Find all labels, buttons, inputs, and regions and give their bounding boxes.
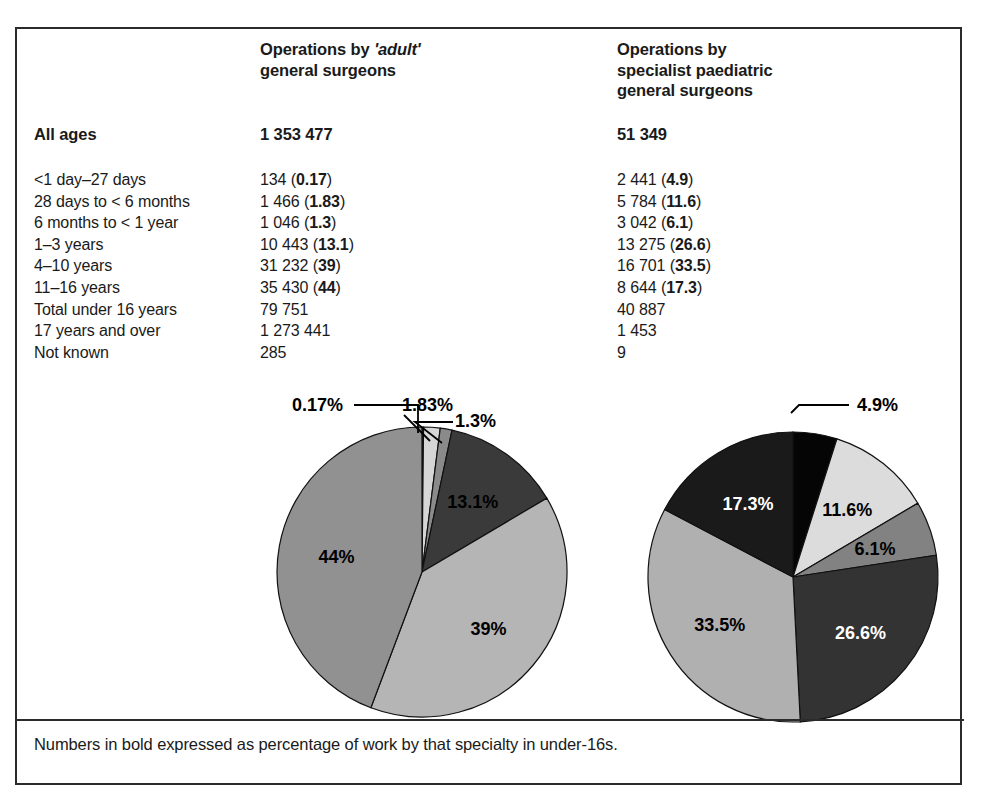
table-row-paed-value: 40 887 (617, 299, 917, 321)
table-row-label: 6 months to < 1 year (34, 212, 264, 234)
table-row-paed-value: 2 441 (4.9) (617, 169, 917, 191)
pie-slice (422, 427, 424, 572)
table-row-adult-percent: 39 (318, 257, 336, 274)
pie-slice-label: 11.6% (822, 500, 872, 520)
table-row-label: 4–10 years (34, 255, 264, 277)
table-row-paed-percent: 17.3 (666, 279, 697, 296)
table-row-adult-value: 35 430 (44) (260, 277, 490, 299)
pie-slice (422, 427, 440, 572)
table-row-adult-percent: 44 (318, 279, 336, 296)
pie-callout-leader-line (791, 405, 849, 413)
table-row-adult-value: 10 443 (13.1) (260, 234, 490, 256)
pie-slice-label: 39% (471, 619, 507, 639)
column-header-paediatric: Operations by specialist paediatric gene… (617, 39, 917, 101)
column-header-adult-line2: general surgeons (260, 61, 396, 79)
pie-callout-017: 0.17% (292, 395, 343, 415)
column-header-adult-line1: Operations by (260, 40, 374, 58)
footer-divider (17, 719, 964, 721)
pie-slice-label: 13.1% (447, 492, 498, 512)
table-row-paed-value: 8 644 (17.3) (617, 277, 917, 299)
pie-callout-183: 1.83% (402, 395, 453, 415)
table-row-paed-percent: 11.6 (666, 193, 696, 210)
pie-slice-label: 17.3% (722, 494, 773, 514)
table-row-paed-value: 13 275 (26.6) (617, 234, 917, 256)
table-row-label: 1–3 years (34, 234, 264, 256)
table-row-adult-percent: 1.3 (309, 214, 331, 231)
pie-slice (665, 432, 793, 577)
table-row-paed-percent: 6.1 (666, 214, 688, 231)
pie-callout-13: 1.3% (455, 411, 496, 431)
table-row-label: <1 day–27 days (34, 169, 264, 191)
pie-slice (648, 510, 800, 722)
table-row-adult-value: 1 466 (1.83) (260, 191, 490, 213)
pie-slice (422, 430, 547, 572)
pie-callout-leader-line (404, 415, 430, 441)
column-header-adult: Operations by 'adult' general surgeons (260, 39, 490, 80)
column-header-paed-line1: Operations by (617, 40, 727, 58)
pie-slice (793, 439, 918, 577)
table-row-label: 11–16 years (34, 277, 264, 299)
table-row-paed-value: 9 (617, 342, 917, 364)
row-adult-list: 134 (0.17)1 466 (1.83)1 046 (1.3)10 443 … (260, 169, 490, 363)
pie-slice (793, 432, 837, 577)
pie-slice-label: 6.1% (854, 539, 895, 559)
table-row-paed-value: 3 042 (6.1) (617, 212, 917, 234)
column-header-paed-line2: specialist paediatric (617, 61, 773, 79)
all-ages-paed-value: 51 349 (617, 125, 917, 144)
table-row-label: Total under 16 years (34, 299, 264, 321)
table-row-adult-percent: 1.83 (309, 193, 340, 210)
table-row-paed-value: 1 453 (617, 320, 917, 342)
pie-slice (793, 503, 936, 577)
pie-callout-49: 4.9% (857, 395, 898, 415)
all-ages-adult-value: 1 353 477 (260, 125, 490, 144)
pie-slice-label: 33.5% (694, 615, 745, 635)
pie-callout-leader-line (354, 405, 418, 433)
pie-slice (422, 428, 452, 572)
table-row-adult-value: 79 751 (260, 299, 490, 321)
figure-frame: Operations by 'adult' general surgeons O… (15, 27, 962, 785)
pie-slice (371, 498, 567, 717)
row-paed-list: 2 441 (4.9)5 784 (11.6)3 042 (6.1)13 275… (617, 169, 917, 363)
table-row-paed-percent: 26.6 (675, 236, 706, 253)
table-row-paed-value: 5 784 (11.6) (617, 191, 917, 213)
table-row-adult-value: 134 (0.17) (260, 169, 490, 191)
table-row-adult-value: 1 273 441 (260, 320, 490, 342)
column-header-adult-emphasis: 'adult' (374, 40, 421, 58)
pie-callout-leader-line (415, 422, 453, 443)
table-row-adult-value: 285 (260, 342, 490, 364)
pie-slice (793, 555, 938, 722)
table-row-paed-percent: 33.5 (675, 257, 706, 274)
table-row-label: 28 days to < 6 months (34, 191, 264, 213)
pie-chart-left: 13.1%39%44% (277, 427, 567, 717)
table-row-paed-value: 16 701 (33.5) (617, 255, 917, 277)
column-header-paed-line3: general surgeons (617, 81, 753, 99)
table-row-paed-percent: 4.9 (666, 171, 688, 188)
pie-slice-label: 26.6% (835, 623, 886, 643)
row-label-list: <1 day–27 days28 days to < 6 months6 mon… (34, 169, 264, 363)
table-row-label: Not known (34, 342, 264, 364)
pie-chart-right: 11.6%6.1%26.6%33.5%17.3% (648, 432, 938, 722)
pie-slice-label: 44% (318, 547, 354, 567)
table-row-adult-percent: 13.1 (318, 236, 349, 253)
table-row-label: 17 years and over (34, 320, 264, 342)
figure-page: Operations by 'adult' general surgeons O… (0, 0, 982, 794)
table-row-adult-value: 31 232 (39) (260, 255, 490, 277)
pie-slice (277, 427, 422, 708)
table-row-adult-percent: 0.17 (296, 171, 327, 188)
all-ages-label: All ages (34, 125, 264, 144)
footnote-text: Numbers in bold expressed as percentage … (34, 735, 618, 754)
table-row-adult-value: 1 046 (1.3) (260, 212, 490, 234)
